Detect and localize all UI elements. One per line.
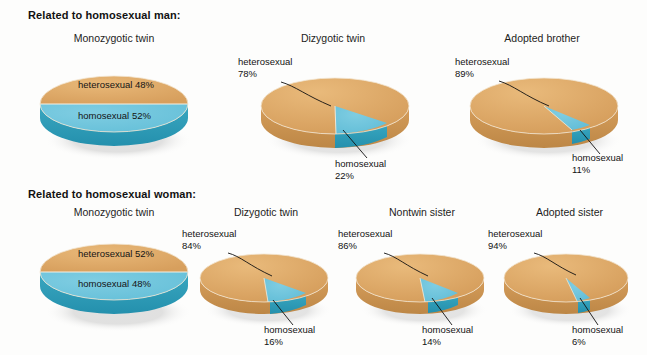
value-homosexual: 6% [572,336,623,348]
label-homosexual: homosexual [78,110,129,121]
value-heterosexual: 89% [455,68,509,80]
value-heterosexual: 52% [135,248,154,259]
label-homosexual: homosexual [264,324,315,335]
pie-svg [500,238,640,333]
label-heterosexual: heterosexual [238,56,292,67]
value-homosexual: 11% [572,164,623,176]
callout-heterosexual-man-adopted: heterosexual 89% [455,56,509,79]
chart-title-man-adopted: Adopted brother [452,32,632,44]
section-title-woman: Related to homosexual woman: [28,188,196,200]
section-title-man: Related to homosexual man: [28,9,181,21]
label-homosexual: homosexual [422,324,473,335]
label-homosexual: homosexual [572,152,623,163]
value-heterosexual: 84% [182,240,236,252]
chart-panel-man-dizygotic: Dizygotic twin [243,32,423,182]
value-homosexual: 14% [422,336,473,348]
value-heterosexual: 86% [338,240,392,252]
chart-title-man-dizygotic: Dizygotic twin [243,32,423,44]
label-homosexual: homosexual [78,278,129,289]
value-homosexual: 48% [132,278,151,289]
chart-panel-woman-adopted: Adopted sister [492,206,647,351]
callout-homosexual-woman-nontwin: homosexual 14% [422,324,473,347]
chart-panel-woman-nontwin: Nontwin sister [342,206,502,351]
callout-homosexual-man-adopted: homosexual 11% [572,152,623,175]
callout-heterosexual-woman-dizygotic: heterosexual 84% [182,228,236,251]
chart-title-man-monozygotic: Monozygotic twin [24,32,204,44]
callout-homosexual-man-dizygotic: homosexual 22% [335,158,386,181]
callout-homosexual-woman-adopted: homosexual 6% [572,324,623,347]
inline-label-homosexual-woman-monozygotic: homosexual 48% [78,278,151,290]
callout-homosexual-woman-dizygotic: homosexual 16% [264,324,315,347]
callout-heterosexual-woman-adopted: heterosexual 94% [488,228,542,251]
inline-label-heterosexual-man-monozygotic: heterosexual 48% [78,79,154,91]
pie-svg [352,238,492,333]
chart-panel-woman-dizygotic: Dizygotic twin [186,206,346,351]
value-heterosexual: 78% [238,68,292,80]
chart-title-woman-dizygotic: Dizygotic twin [186,206,346,218]
chart-title-woman-monozygotic: Monozygotic twin [24,206,204,218]
value-homosexual: 52% [132,110,151,121]
value-homosexual: 16% [264,336,315,348]
inline-label-homosexual-man-monozygotic: homosexual 52% [78,110,151,122]
label-heterosexual: heterosexual [182,228,236,239]
pie-woman-nontwin [352,238,492,333]
label-homosexual: homosexual [335,158,386,169]
label-heterosexual: heterosexual [78,79,132,90]
inline-label-heterosexual-woman-monozygotic: heterosexual 52% [78,248,154,260]
label-heterosexual: heterosexual [338,228,392,239]
callout-heterosexual-woman-nontwin: heterosexual 86% [338,228,392,251]
pie-woman-adopted [500,238,640,333]
chart-title-woman-adopted: Adopted sister [492,206,647,218]
pie-woman-dizygotic [196,238,336,333]
chart-panel-woman-monozygotic: Monozygotic twin [24,206,204,341]
chart-title-woman-nontwin: Nontwin sister [342,206,502,218]
label-heterosexual: heterosexual [78,248,132,259]
chart-panel-man-monozygotic: Monozygotic twin [24,32,204,167]
value-homosexual: 22% [335,170,386,182]
pie-svg [196,238,336,333]
value-heterosexual: 94% [488,240,542,252]
value-heterosexual: 48% [135,79,154,90]
label-homosexual: homosexual [572,324,623,335]
callout-heterosexual-man-dizygotic: heterosexual 78% [238,56,292,79]
chart-panel-man-adopted: Adopted brother [452,32,632,182]
pie-chart-figure: Related to homosexual man: Monozygotic t… [0,0,647,355]
label-heterosexual: heterosexual [488,228,542,239]
label-heterosexual: heterosexual [455,56,509,67]
